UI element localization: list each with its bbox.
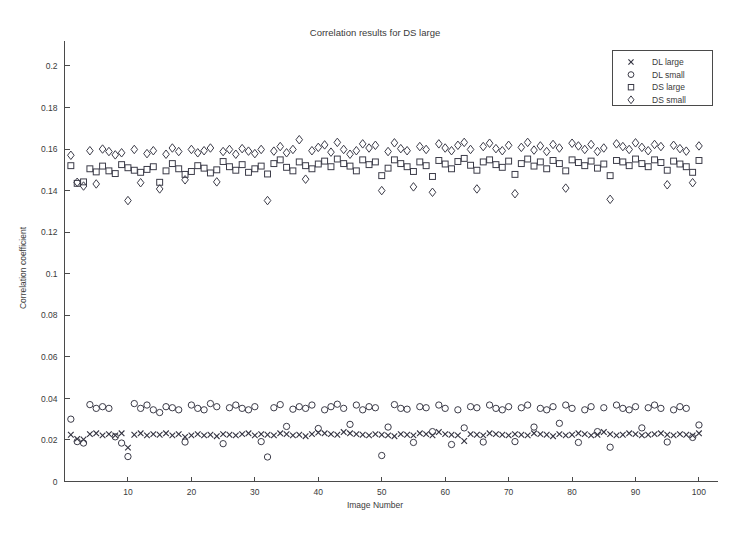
- data-point: [252, 166, 258, 172]
- data-point: [429, 428, 435, 434]
- data-point: [137, 178, 144, 186]
- data-point: [283, 149, 290, 157]
- data-point: [550, 404, 556, 410]
- data-point: [569, 405, 575, 411]
- data-point: [582, 431, 588, 437]
- data-point: [588, 433, 594, 439]
- data-point: [214, 167, 220, 173]
- data-point: [87, 146, 94, 154]
- data-point: [474, 185, 481, 193]
- data-point: [404, 406, 410, 412]
- data-point: [163, 430, 169, 436]
- data-point: [391, 401, 397, 407]
- data-point: [150, 164, 156, 170]
- data-point: [125, 196, 132, 204]
- data-point: [68, 163, 74, 169]
- data-point: [265, 432, 271, 438]
- legend-label[interactable]: DS small: [652, 95, 686, 105]
- data-point: [169, 405, 175, 411]
- data-point: [277, 142, 284, 150]
- data-point: [302, 405, 308, 411]
- data-point: [303, 433, 309, 439]
- data-point: [315, 425, 321, 431]
- x-tick-label: 80: [567, 487, 577, 497]
- data-point: [125, 453, 131, 459]
- data-point: [632, 404, 638, 410]
- chart-legend: DL largeDL smallDS largeDS small: [613, 51, 713, 106]
- data-point: [182, 171, 188, 177]
- data-point: [309, 402, 315, 408]
- data-point: [556, 420, 562, 426]
- data-point: [150, 146, 157, 154]
- data-point: [188, 402, 194, 408]
- figure-container: Correlation results for DS large 00.020.…: [0, 0, 741, 541]
- data-point: [321, 407, 327, 413]
- data-point: [696, 158, 702, 164]
- y-tick-label: 0: [53, 477, 58, 487]
- data-point: [683, 405, 689, 411]
- data-point: [245, 407, 251, 413]
- data-point: [227, 432, 233, 438]
- data-point: [93, 430, 99, 436]
- data-point: [430, 433, 436, 439]
- data-point: [150, 407, 156, 413]
- data-point: [93, 405, 99, 411]
- data-point: [239, 162, 245, 168]
- data-point: [626, 163, 632, 169]
- data-point: [207, 400, 213, 406]
- data-point: [246, 169, 252, 175]
- data-point: [309, 431, 315, 437]
- data-point: [68, 151, 75, 159]
- data-point: [207, 170, 213, 176]
- data-point: [360, 407, 366, 413]
- data-point: [353, 168, 359, 174]
- data-point: [537, 405, 543, 411]
- data-point: [258, 438, 264, 444]
- data-point: [360, 432, 366, 438]
- x-axis-ticks: 102030405060708090100: [123, 477, 706, 497]
- data-point: [550, 433, 556, 439]
- data-point: [493, 162, 499, 168]
- data-point: [290, 145, 297, 153]
- data-point: [290, 168, 296, 174]
- data-point: [233, 167, 239, 173]
- data-point: [449, 432, 455, 438]
- data-point: [366, 433, 372, 439]
- data-point: [467, 404, 473, 410]
- data-point: [633, 156, 639, 162]
- data-point: [607, 431, 613, 437]
- data-point: [271, 147, 278, 155]
- legend-label[interactable]: DL small: [652, 70, 685, 80]
- data-point: [639, 433, 645, 439]
- data-point: [227, 164, 233, 170]
- data-point: [182, 439, 188, 445]
- x-tick-label: 70: [504, 487, 514, 497]
- y-tick-label: 0.02: [41, 435, 58, 445]
- data-point: [233, 402, 239, 408]
- data-point: [347, 163, 353, 169]
- data-point: [322, 158, 328, 164]
- data-points-layer: [68, 135, 703, 460]
- data-point: [341, 161, 347, 167]
- data-point: [486, 402, 492, 408]
- data-point: [575, 160, 581, 166]
- legend-label[interactable]: DS large: [652, 82, 685, 92]
- data-point: [385, 147, 392, 155]
- series-ds-large: [68, 155, 702, 186]
- data-point: [169, 144, 176, 152]
- data-point: [480, 433, 486, 439]
- legend-label[interactable]: DL large: [652, 57, 684, 67]
- data-point: [404, 146, 411, 154]
- y-tick-label: 0.1: [46, 269, 58, 279]
- data-point: [290, 433, 296, 439]
- data-point: [226, 145, 233, 153]
- data-point: [80, 182, 87, 190]
- data-point: [493, 144, 500, 152]
- data-point: [163, 404, 169, 410]
- data-point: [392, 433, 398, 439]
- data-point: [658, 430, 664, 436]
- data-point: [277, 157, 283, 163]
- data-point: [531, 424, 537, 430]
- data-point: [506, 433, 512, 439]
- data-point: [543, 147, 550, 155]
